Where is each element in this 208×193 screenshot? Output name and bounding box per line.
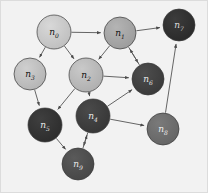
graph-node-n4[interactable]: n4 — [76, 99, 110, 133]
node-label-subscript-n8: 8 — [164, 129, 168, 136]
node-label-subscript-n0: 0 — [55, 32, 59, 39]
node-label-subscript-n4: 4 — [93, 116, 98, 123]
graph-edge-n2-to-n4 — [89, 92, 90, 96]
node-label-subscript-n7: 7 — [180, 25, 184, 32]
node-label-subscript-n6: 6 — [149, 79, 153, 86]
graph-figure: n0n1n2n3n4n5n6n7n8n9 — [0, 0, 208, 193]
node-label-subscript-n2: 2 — [86, 75, 91, 82]
graph-node-n7[interactable]: n7 — [163, 9, 195, 41]
graph-node-n9[interactable]: n9 — [62, 148, 94, 180]
graph-node-n3[interactable]: n3 — [14, 58, 46, 90]
node-label-subscript-n5: 5 — [46, 125, 50, 132]
graph-node-n6[interactable]: n6 — [132, 63, 164, 95]
node-label-subscript-n9: 9 — [79, 164, 83, 171]
graph-node-n2[interactable]: n2 — [69, 58, 103, 92]
graph-node-n8[interactable]: n8 — [147, 113, 179, 145]
node-label-subscript-n1: 1 — [121, 33, 125, 40]
node-label-subscript-n3: 3 — [31, 74, 35, 81]
graph-node-n0[interactable]: n0 — [37, 15, 71, 49]
graph-canvas: n0n1n2n3n4n5n6n7n8n9 — [0, 0, 208, 193]
graph-node-n1[interactable]: n1 — [104, 17, 136, 49]
graph-node-n5[interactable]: n5 — [28, 108, 62, 142]
